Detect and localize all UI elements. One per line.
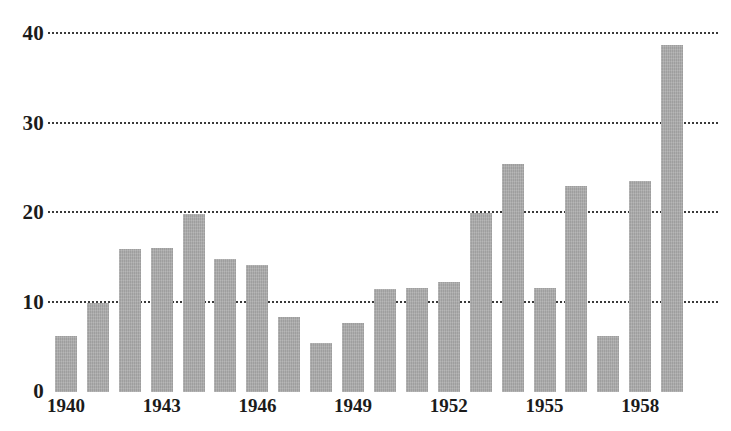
y-axis-tick-label: 40 (0, 23, 44, 44)
bar (597, 336, 619, 392)
bar (246, 265, 268, 392)
bar (661, 45, 683, 392)
x-axis-tick-label: 1940 (47, 396, 85, 417)
x-axis-tick-label: 1952 (430, 396, 468, 417)
bar (151, 248, 173, 392)
x-axis-tick-label: 1955 (526, 396, 564, 417)
bar (406, 288, 428, 392)
bar (55, 336, 77, 392)
bar (278, 317, 300, 392)
y-axis-tick-label: 30 (0, 113, 44, 134)
bar (310, 343, 332, 392)
x-axis-tick-label: 1949 (334, 396, 372, 417)
bar (374, 289, 396, 392)
bar (565, 186, 587, 392)
bar (438, 282, 460, 392)
bar (629, 181, 651, 392)
plot-area (48, 20, 718, 392)
bar (214, 259, 236, 392)
y-axis: 010203040 (0, 0, 44, 431)
bar-chart: 010203040 1940194319461949195219551958 (0, 0, 731, 431)
x-axis-tick-label: 1946 (238, 396, 276, 417)
x-axis-tick-label: 1958 (621, 396, 659, 417)
y-axis-tick-label: 10 (0, 292, 44, 313)
bars-group (48, 20, 718, 392)
bar (87, 303, 109, 393)
bar (502, 164, 524, 392)
y-axis-tick-label: 20 (0, 202, 44, 223)
bar (119, 249, 141, 392)
x-axis-tick-label: 1943 (143, 396, 181, 417)
bar (183, 214, 205, 392)
bar (534, 288, 556, 392)
x-axis: 1940194319461949195219551958 (48, 396, 718, 430)
bar (470, 213, 492, 392)
y-axis-tick-label: 0 (0, 381, 44, 402)
bar (342, 323, 364, 392)
